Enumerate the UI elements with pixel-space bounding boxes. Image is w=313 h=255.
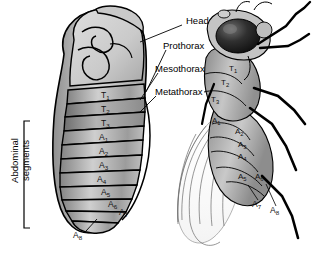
fly-label-T3: T3: [211, 96, 219, 104]
fly-label-A7: A7: [252, 200, 261, 209]
fly-label-T1: T1: [229, 65, 237, 73]
fly-label-T2: T2: [221, 79, 229, 87]
larva-label-A6: A6: [108, 200, 117, 209]
fly-group: [178, 1, 310, 245]
larva-label-A7: A7: [119, 208, 128, 217]
label-metathorax: Metathorax: [155, 87, 203, 97]
fly-label-A8: A8: [270, 206, 279, 215]
larva-label-A3: A3: [99, 161, 108, 170]
abdominal-label-line1: Abdominal: [10, 117, 21, 205]
fly-leg-2: [254, 88, 305, 124]
fly-label-A4: A4: [238, 153, 247, 161]
abdominal-segments-label: Abdominal segments: [10, 117, 31, 205]
fly-antenna-segment: [218, 10, 230, 18]
larva-label-T2: T2: [101, 105, 110, 114]
label-mesothorax: Mesothorax: [155, 64, 205, 74]
fly-antenna-right: [254, 2, 272, 10]
larva-label-T3: T3: [101, 119, 110, 128]
larva-label-A8: A8: [73, 231, 82, 240]
figure-canvas: Head Prothorax Mesothorax Metathorax Abd…: [0, 0, 313, 255]
fly-eye-highlight: [223, 24, 237, 34]
larva-label-A4: A4: [97, 175, 106, 184]
label-head: Head: [186, 16, 209, 26]
fly-label-A3: A3: [238, 141, 247, 149]
larva-label-T1: T1: [101, 91, 110, 100]
larva-label-A1: A1: [99, 133, 108, 142]
abdominal-label-line2: segments: [20, 117, 31, 205]
fly-label-A1: A1: [212, 117, 221, 125]
larva-label-A5: A5: [101, 188, 110, 197]
fly-compound-eye: [216, 19, 260, 53]
fly-label-A2: A2: [235, 128, 244, 136]
fly-label-A6: A6: [255, 173, 264, 181]
diagram-svg: [0, 0, 313, 255]
larva-label-A2: A2: [99, 147, 108, 156]
fly-label-A5: A5: [238, 173, 247, 181]
label-prothorax: Prothorax: [163, 41, 204, 51]
larva-segment-A5: [60, 185, 137, 200]
